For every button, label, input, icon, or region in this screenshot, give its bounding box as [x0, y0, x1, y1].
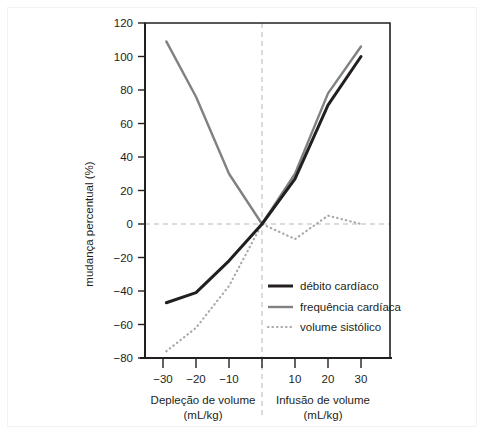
x-axis-right-caption: Infusão de volume (mL/kg)	[276, 394, 370, 421]
x-axis-right-caption-line2: (mL/kg)	[304, 409, 343, 421]
y-ticklabel-80: 80	[120, 84, 133, 96]
y-ticklabel-minus80: −80	[113, 352, 133, 364]
x-axis-ticks	[163, 358, 361, 368]
percent-change-line-chart: 120 100 80 60 40 20 0 −20 −40 −60 −80 −3…	[0, 0, 486, 435]
x-axis-right-caption-line1: Infusão de volume	[276, 394, 370, 406]
y-ticklabel-minus20: −20	[113, 252, 133, 264]
figure-root: 120 100 80 60 40 20 0 −20 −40 −60 −80 −3…	[0, 0, 486, 435]
x-ticklabel-minus30: −30	[153, 373, 173, 385]
y-ticklabel-minus40: −40	[113, 285, 133, 297]
x-ticklabel-minus10: −10	[219, 373, 239, 385]
x-ticklabel-10: 10	[289, 373, 302, 385]
y-ticklabel-120: 120	[114, 17, 133, 29]
x-ticklabel-30: 30	[355, 373, 368, 385]
legend-label-volume-sistolico: volume sistólico	[300, 321, 381, 333]
x-axis-left-caption-line1: Depleção de volume	[151, 394, 256, 406]
x-axis-left-caption: Depleção de volume (mL/kg)	[151, 394, 256, 421]
y-ticklabel-minus60: −60	[113, 319, 133, 331]
legend-label-frequencia-cardiaca: frequência cardíaca	[300, 301, 402, 313]
x-ticklabel-minus20: −20	[186, 373, 206, 385]
y-ticklabel-40: 40	[120, 151, 133, 163]
x-axis-tick-labels: −30 −20 −10 10 20 30	[153, 373, 367, 385]
y-ticklabel-0: 0	[127, 218, 133, 230]
y-axis-tick-labels: 120 100 80 60 40 20 0 −20 −40 −60 −80	[113, 17, 133, 364]
y-ticklabel-20: 20	[120, 185, 133, 197]
y-axis-title: mudança percentual (%)	[83, 161, 95, 286]
x-axis-left-caption-line2: (mL/kg)	[184, 409, 223, 421]
y-ticklabel-100: 100	[114, 51, 133, 63]
legend-label-debito-cardiaco: débito cardíaco	[300, 280, 379, 292]
x-ticklabel-20: 20	[322, 373, 335, 385]
y-ticklabel-60: 60	[120, 118, 133, 130]
y-axis-ticks	[138, 23, 145, 358]
